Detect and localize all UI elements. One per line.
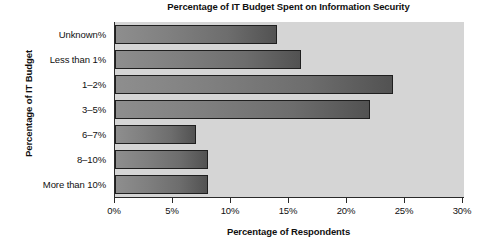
x-axis-title: Percentage of Respondents — [114, 226, 463, 237]
bar[interactable] — [115, 150, 208, 169]
x-tick-label: 30% — [453, 205, 472, 216]
x-axis-ticks: 0% 5% 10% 15% 20% 25% 30% — [0, 197, 480, 223]
y-tick-label: 6–7% — [82, 122, 106, 147]
chart-title: Percentage of IT Budget Spent on Informa… — [114, 1, 463, 12]
bar[interactable] — [115, 125, 196, 144]
bar[interactable] — [115, 100, 370, 119]
x-tick-label: 5% — [165, 205, 179, 216]
y-tick-label: Less than 1% — [50, 47, 106, 72]
y-axis-tick-labels: Unknown% Less than 1% 1–2% 3–5% 6–7% 8–1… — [0, 22, 110, 197]
x-tick-mark — [404, 197, 405, 203]
x-tick-mark — [172, 197, 173, 203]
x-tick-mark — [288, 197, 289, 203]
bars-layer — [115, 22, 463, 197]
bar[interactable] — [115, 75, 393, 94]
bar[interactable] — [115, 50, 301, 69]
bar[interactable] — [115, 25, 277, 44]
x-tick-mark — [114, 197, 115, 203]
bar[interactable] — [115, 175, 208, 194]
y-tick-label: 3–5% — [82, 97, 106, 122]
x-tick-label: 10% — [221, 205, 240, 216]
x-tick-label: 20% — [337, 205, 356, 216]
bar-chart: Percentage of IT Budget Spent on Informa… — [0, 0, 480, 248]
y-tick-label: Unknown% — [59, 22, 106, 47]
y-tick-label: More than 10% — [43, 172, 106, 197]
x-tick-mark — [230, 197, 231, 203]
x-tick-label: 25% — [395, 205, 414, 216]
x-tick-label: 15% — [279, 205, 298, 216]
y-tick-label: 1–2% — [82, 72, 106, 97]
x-tick-mark — [346, 197, 347, 203]
x-tick-label: 0% — [107, 205, 121, 216]
x-tick-mark — [462, 197, 463, 203]
y-tick-label: 8–10% — [77, 147, 106, 172]
